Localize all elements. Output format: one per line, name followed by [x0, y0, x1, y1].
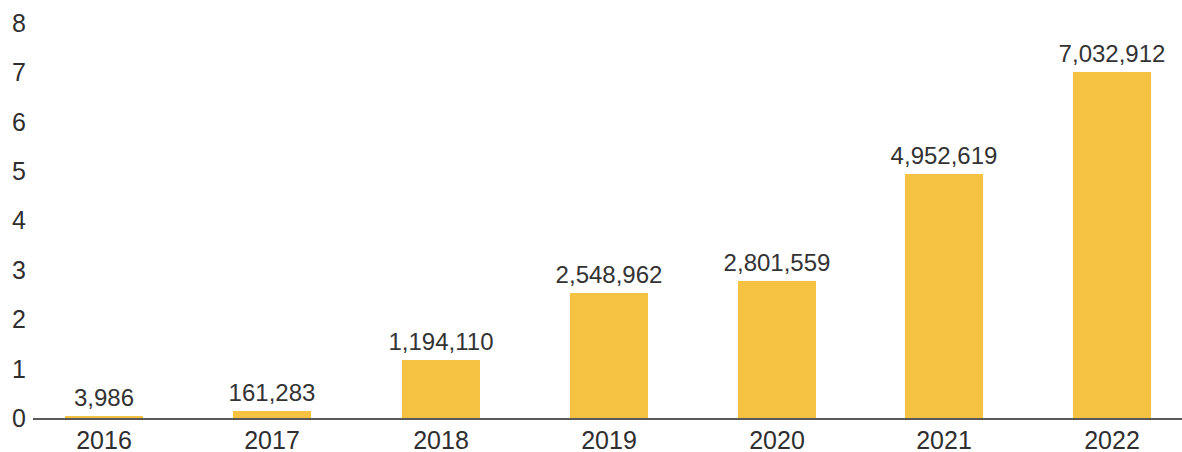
x-axis-line: [33, 418, 1182, 420]
bar-2021: [905, 174, 983, 419]
y-axis-tick-2: 2: [0, 307, 26, 332]
x-axis-tick-2017: 2017: [202, 428, 342, 452]
bar-2019: [570, 293, 648, 419]
y-axis-tick-0: 0: [0, 406, 26, 431]
bar-value-2020: 2,801,559: [707, 251, 847, 275]
bar-value-2017: 161,283: [202, 381, 342, 405]
bar-value-2019: 2,548,962: [539, 263, 679, 287]
bar-2018: [402, 360, 480, 419]
y-axis-tick-3: 3: [0, 258, 26, 283]
x-axis-tick-2022: 2022: [1042, 428, 1182, 452]
bar-value-2022: 7,032,912: [1042, 42, 1182, 66]
x-axis-tick-2020: 2020: [707, 428, 847, 452]
y-axis-tick-5: 5: [0, 159, 26, 184]
bar-2022: [1073, 72, 1151, 419]
bar-value-2018: 1,194,110: [371, 330, 511, 354]
x-axis-tick-2019: 2019: [539, 428, 679, 452]
x-axis-tick-2018: 2018: [371, 428, 511, 452]
x-axis-tick-2016: 2016: [34, 428, 174, 452]
y-axis-tick-1: 1: [0, 357, 26, 382]
bar-value-2021: 4,952,619: [874, 144, 1014, 168]
x-axis-tick-2021: 2021: [874, 428, 1014, 452]
bar-value-2016: 3,986: [34, 386, 174, 410]
plot-area: 8 7 6 5 4 3 2 1 0 3,986 161,283 1,194,11…: [0, 0, 1182, 452]
bar-2020: [738, 281, 816, 419]
bar-chart: 8 7 6 5 4 3 2 1 0 3,986 161,283 1,194,11…: [0, 0, 1182, 452]
y-axis-tick-4: 4: [0, 208, 26, 233]
y-axis-tick-8: 8: [0, 11, 26, 36]
y-axis-tick-6: 6: [0, 110, 26, 135]
y-axis-tick-7: 7: [0, 60, 26, 85]
